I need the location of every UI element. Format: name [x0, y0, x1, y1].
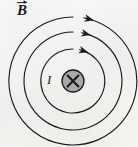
outer-field-line-arrow	[84, 18, 92, 20]
middle-field-line-arrow	[82, 33, 90, 35]
current-into-page-symbol	[62, 70, 84, 92]
field-label-b-text: B	[17, 2, 27, 18]
current-label-i: I	[47, 73, 51, 86]
vector-arrow-icon	[17, 0, 28, 4]
magnetic-field-diagram: B I	[0, 0, 138, 147]
field-diagram-canvas	[0, 0, 138, 147]
inner-field-line-arrow	[79, 50, 86, 52]
field-label-b: B	[17, 3, 27, 18]
current-label-i-text: I	[47, 72, 51, 87]
